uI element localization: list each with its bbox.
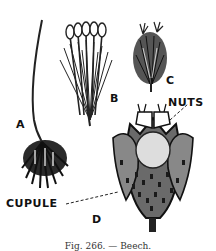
label-b: B: [110, 92, 119, 105]
flower-b: [60, 22, 112, 126]
flower-a-catkin: [22, 140, 68, 188]
figure-caption: Fig. 266. — Beech.: [0, 241, 216, 251]
cupule-leader-line: [66, 192, 118, 204]
label-a: A: [16, 118, 25, 131]
fruit-d: [113, 104, 193, 232]
label-cupule: CUPULE: [6, 197, 58, 210]
label-c: C: [166, 74, 175, 87]
flower-c: [133, 22, 167, 92]
flower-a-stalk: [33, 20, 42, 142]
label-nuts: NUTS: [168, 96, 204, 109]
label-d: D: [92, 213, 102, 226]
